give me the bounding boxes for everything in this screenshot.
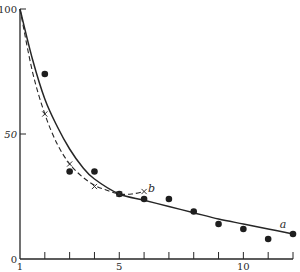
data-point-cross (141, 189, 146, 194)
data-point-dot (66, 168, 73, 175)
x-tick-label: 10 (237, 261, 250, 272)
plot-area: 1510050100 ab (0, 0, 300, 272)
curve-label-b: b (148, 182, 155, 195)
y-tick-label: 100 (0, 4, 17, 15)
data-point-dot (215, 221, 222, 228)
x-tick-label: 5 (116, 261, 122, 272)
curve-label-a: a (280, 218, 287, 231)
x-tick-label: 1 (17, 261, 23, 272)
markers (42, 71, 297, 243)
data-point-dot (91, 168, 98, 175)
data-point-dot (290, 231, 297, 238)
data-point-cross (42, 111, 47, 116)
data-point-cross (67, 161, 72, 166)
axes: 1510050100 (0, 4, 293, 272)
y-tick-label: 50 (4, 129, 17, 140)
data-point-dot (265, 236, 272, 243)
curves (20, 9, 293, 234)
decay-curve-chart: 1510050100 ab (0, 0, 300, 272)
curve-a (20, 9, 293, 234)
data-point-dot (141, 196, 148, 203)
data-point-dot (240, 226, 247, 233)
y-tick-label: 0 (11, 254, 17, 265)
data-point-dot (166, 196, 173, 203)
data-point-dot (190, 208, 197, 215)
data-point-dot (42, 71, 49, 78)
